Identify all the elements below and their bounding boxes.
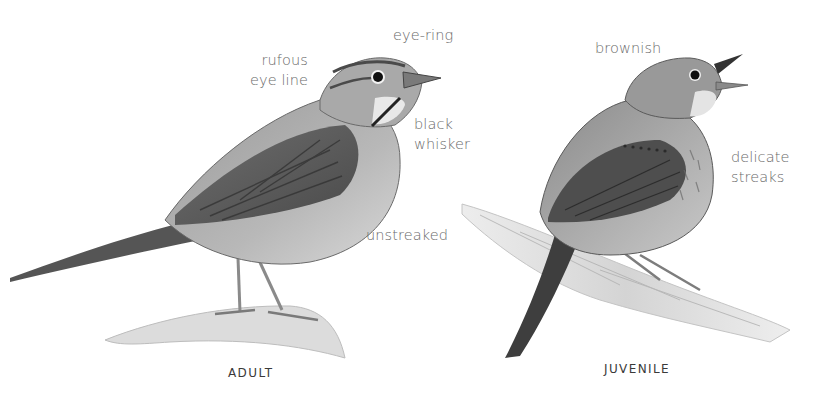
label-line: streaks <box>731 167 789 187</box>
bird-illustration-plate: rufous eye line eye-ring black whisker u… <box>0 0 837 401</box>
adult-bird <box>10 58 441 320</box>
label-brownish: brownish <box>595 38 661 58</box>
label-line: whisker <box>414 134 470 154</box>
label-rufous-eye-line: rufous eye line <box>238 50 308 90</box>
label-unstreaked: unstreaked <box>366 225 448 245</box>
label-delicate-streaks: delicate streaks <box>731 147 789 187</box>
bird-drawings <box>0 0 837 401</box>
label-black-whisker: black whisker <box>414 114 470 154</box>
caption-juvenile: JUVENILE <box>604 362 670 376</box>
label-eye-ring: eye-ring <box>393 25 453 45</box>
label-line: delicate <box>731 147 789 167</box>
caption-adult: ADULT <box>228 366 274 380</box>
label-line: eye line <box>238 70 308 90</box>
label-line: black <box>414 114 470 134</box>
label-line: rufous <box>238 50 308 70</box>
